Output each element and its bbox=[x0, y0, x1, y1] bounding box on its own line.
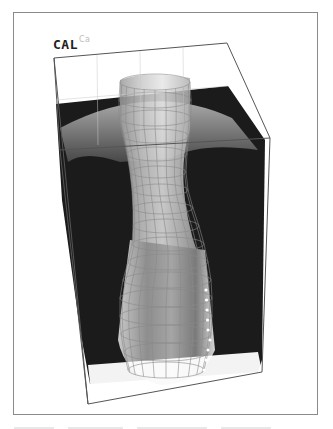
figure-label: CALCa bbox=[53, 35, 90, 52]
marker-dot bbox=[204, 288, 207, 291]
marker-dot bbox=[204, 358, 207, 361]
marker-dot bbox=[208, 338, 211, 341]
render-3d bbox=[0, 0, 333, 429]
marker-dot bbox=[205, 298, 208, 301]
label-superscript: Ca bbox=[79, 35, 91, 44]
label-main: CAL bbox=[53, 37, 78, 52]
caption-faint bbox=[14, 418, 314, 426]
marker-dot bbox=[206, 318, 209, 321]
marker-dot bbox=[206, 348, 209, 351]
marker-dot bbox=[205, 308, 208, 311]
marker-dot bbox=[206, 328, 209, 331]
marker-dot bbox=[202, 368, 205, 371]
